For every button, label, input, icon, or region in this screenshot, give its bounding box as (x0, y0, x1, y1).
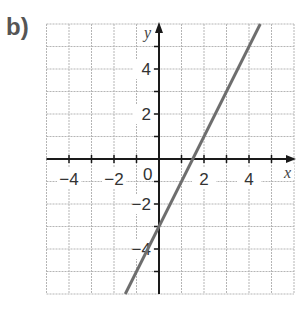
origin-label: 0 (143, 165, 152, 184)
x-tick-label: 2 (199, 170, 208, 189)
y-tick-label: 2 (142, 105, 151, 124)
y-axis-label: y (142, 24, 152, 42)
x-axis-label: x (283, 164, 291, 181)
x-tick-label: −2 (104, 170, 123, 189)
coordinate-plot: −4−22442−2−40xy (0, 0, 302, 310)
x-tick-label: 4 (244, 170, 253, 189)
y-tick-label: 4 (142, 60, 151, 79)
x-tick-label: −4 (59, 170, 78, 189)
y-tick-label: −2 (132, 195, 151, 214)
